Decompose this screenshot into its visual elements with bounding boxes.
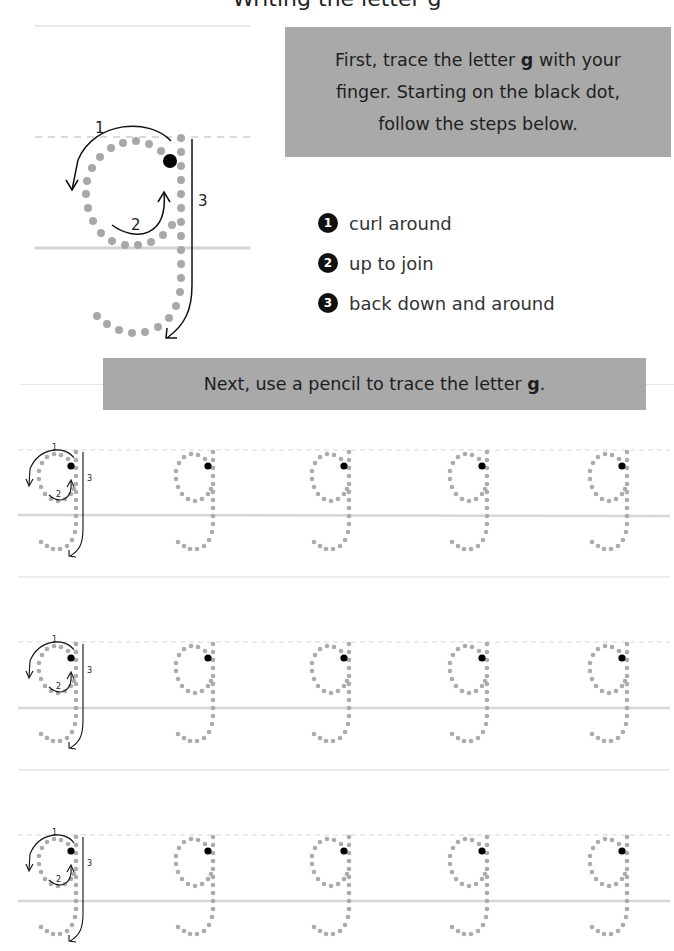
practice-row-2: 1 2 3 bbox=[0, 632, 674, 777]
trace-letter-g bbox=[588, 835, 630, 937]
arrow-label-1: 1 bbox=[95, 119, 105, 137]
arrow-label-3: 3 bbox=[87, 666, 92, 675]
step-item: 2 up to join bbox=[318, 243, 555, 283]
guided-letter-g: 1 2 3 bbox=[26, 443, 92, 557]
instruction-box: First, trace the letter g with your fing… bbox=[285, 27, 671, 157]
arrow-label-1: 1 bbox=[52, 828, 57, 837]
instruction-line1-post: with your bbox=[533, 50, 621, 70]
step-number-badge: 2 bbox=[318, 253, 338, 273]
arrow-label-2: 2 bbox=[56, 875, 61, 884]
trace-letter-g bbox=[174, 642, 216, 744]
step-text: curl around bbox=[349, 213, 452, 234]
page-header-partial: Writing the letter g bbox=[0, 0, 674, 11]
arrow-label-3: 3 bbox=[198, 192, 208, 210]
arrow-3-head bbox=[166, 328, 177, 338]
step-number-badge: 1 bbox=[318, 213, 338, 233]
trace-letter-g bbox=[448, 642, 490, 744]
trace-letter-g bbox=[174, 450, 216, 552]
arrow-label-3: 3 bbox=[87, 859, 92, 868]
instruction-line3: follow the steps below. bbox=[378, 114, 578, 134]
guided-letter-g: 1 2 3 bbox=[26, 635, 92, 749]
instruction-letter: g bbox=[521, 50, 534, 70]
step-text: back down and around bbox=[349, 293, 555, 314]
arrow-label-2: 2 bbox=[131, 216, 141, 234]
instruction-line2: finger. Starting on the black dot, bbox=[336, 82, 620, 102]
trace-letter-g bbox=[310, 450, 352, 552]
step-item: 1 curl around bbox=[318, 203, 555, 243]
step-text: up to join bbox=[349, 253, 434, 274]
arrow-label-2: 2 bbox=[56, 490, 61, 499]
guided-letter-g: 1 2 3 bbox=[26, 828, 92, 942]
model-letter-g: 1 2 3 bbox=[0, 100, 270, 350]
arrow-label-1: 1 bbox=[52, 443, 57, 452]
top-divider bbox=[35, 25, 250, 27]
practice-text-pre: Next, use a pencil to trace the letter bbox=[204, 374, 528, 394]
row-baseline bbox=[18, 515, 670, 516]
arrow-label-1: 1 bbox=[52, 635, 57, 644]
steps-list: 1 curl around 2 up to join 3 back down a… bbox=[318, 203, 555, 323]
trace-letter-g bbox=[310, 642, 352, 744]
trace-letter-g bbox=[310, 835, 352, 937]
practice-row-1: 1 2 3 bbox=[0, 440, 674, 585]
practice-letter: g bbox=[527, 374, 540, 394]
practice-text-post: . bbox=[540, 374, 546, 394]
trace-letter-g bbox=[588, 450, 630, 552]
practice-row-3: 1 2 3 bbox=[0, 825, 674, 951]
arrow-label-3: 3 bbox=[87, 474, 92, 483]
trace-letter-g bbox=[448, 450, 490, 552]
instruction-line1-pre: First, trace the letter bbox=[335, 50, 521, 70]
step-item: 3 back down and around bbox=[318, 283, 555, 323]
trace-letter-g bbox=[448, 835, 490, 937]
arrow-label-2: 2 bbox=[56, 682, 61, 691]
step-number-badge: 3 bbox=[318, 293, 338, 313]
trace-letter-g bbox=[588, 642, 630, 744]
practice-instruction-box: Next, use a pencil to trace the letter g… bbox=[103, 358, 646, 410]
trace-letter-g bbox=[174, 835, 216, 937]
start-dot bbox=[163, 154, 177, 168]
